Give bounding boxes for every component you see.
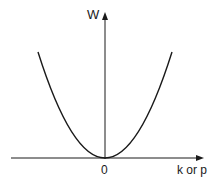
y-axis-arrow-icon <box>102 12 108 20</box>
parabola-diagram <box>0 0 223 182</box>
x-axis-arrow-icon <box>196 155 204 161</box>
y-axis-label: W <box>87 8 99 21</box>
x-axis-label: k or p <box>177 164 207 176</box>
origin-label: 0 <box>101 164 108 176</box>
